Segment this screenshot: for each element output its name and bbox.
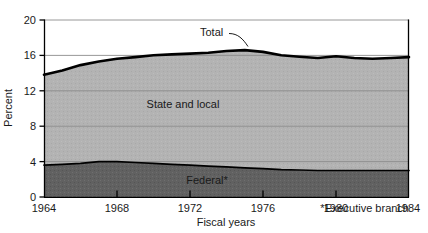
footnote: *Executive branch [320, 202, 409, 214]
xtick-label-1964: 1964 [32, 202, 56, 214]
area-state-and-local [44, 50, 409, 170]
x-axis-title: Fiscal years [197, 216, 256, 228]
ytick-label-16: 16 [24, 49, 36, 61]
ytick-label-12: 12 [24, 85, 36, 97]
ytick-label-4: 4 [30, 156, 36, 168]
series-label-state-and-local: State and local [147, 98, 220, 110]
xtick-label-1968: 1968 [105, 202, 129, 214]
ytick-label-8: 8 [30, 120, 36, 132]
xtick-label-1976: 1976 [251, 202, 275, 214]
ytick-label-20: 20 [24, 14, 36, 26]
xtick-label-1972: 1972 [178, 202, 202, 214]
y-axis-title: Percent [2, 89, 14, 127]
stacked-area-chart: 20 16 12 8 4 0 1964 1968 1972 1976 1980 … [0, 0, 428, 233]
series-label-federal: Federal* [186, 174, 228, 186]
series-label-total: Total [200, 26, 223, 38]
chart-canvas: 20 16 12 8 4 0 1964 1968 1972 1976 1980 … [0, 0, 428, 233]
